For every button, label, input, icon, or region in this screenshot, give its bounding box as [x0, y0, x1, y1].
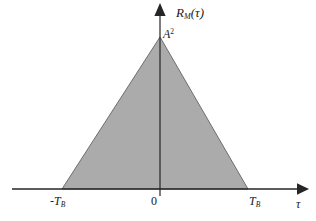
y-axis-label-subscript: M	[184, 12, 191, 21]
y-axis-label-argument: (τ)	[191, 5, 204, 20]
x-tick-left-base: T	[54, 194, 61, 208]
peak-amplitude-label: A2	[163, 28, 174, 40]
autocorrelation-figure: RM(τ) A2 -TB 0 TB τ	[0, 0, 316, 221]
y-axis-arrow-icon	[154, 3, 165, 16]
x-tick-right-base: T	[249, 194, 256, 208]
x-axis-label: τ	[296, 198, 300, 210]
y-axis-label: RM(τ)	[176, 6, 204, 21]
x-tick-label-positive-tb: TB	[249, 195, 260, 208]
x-tick-right-subscript: B	[256, 200, 261, 209]
y-axis-label-base: R	[176, 5, 184, 20]
triangle-waveform-fill	[62, 37, 248, 189]
peak-amplitude-exponent: 2	[170, 27, 174, 36]
x-tick-label-negative-tb: -TB	[50, 195, 65, 208]
x-tick-left-subscript: B	[61, 200, 66, 209]
plot-canvas	[0, 0, 316, 221]
x-axis-arrow-icon	[297, 183, 309, 195]
x-tick-label-origin: 0	[151, 195, 157, 207]
